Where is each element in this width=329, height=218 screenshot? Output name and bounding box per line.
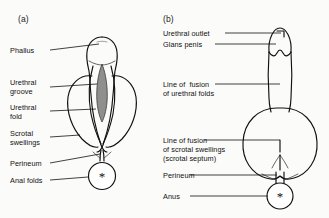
leader-perineum-a	[50, 154, 100, 163]
label-fusion-scrotal-line2: of scrotal swellings	[163, 145, 225, 154]
label-phallus: Phallus	[10, 46, 34, 55]
label-glans-penis: Glans penis	[163, 40, 202, 49]
label-fusion-scrotal-line3: (scrotal septum)	[163, 154, 216, 163]
urethral-outlet-slit	[277, 31, 284, 37]
urethral-groove-shape	[97, 64, 108, 122]
label-urethral-fold-line1: Urethral	[10, 103, 36, 112]
scrotal-fusion-right	[280, 155, 288, 168]
glans-corona-wave	[269, 50, 291, 56]
label-perineum-a: Perineum	[10, 159, 42, 168]
scrotal-swelling-right	[106, 76, 136, 147]
leader-anal-folds	[50, 177, 88, 180]
scrotal-fusion-left	[272, 155, 280, 168]
glans-penis-outline	[269, 28, 291, 52]
label-fusion-urethral-line1: Line of fusion	[163, 80, 209, 89]
anus-asterisk-b: *	[277, 189, 284, 204]
label-anal-folds: Anal folds	[10, 176, 43, 185]
penis-shaft-left	[268, 52, 271, 112]
leader-scrotal-swell	[50, 135, 80, 137]
label-perineum-b: Perineum	[163, 171, 195, 180]
glans-tip-crease	[97, 41, 107, 42]
label-urethral-fold-line2: fold	[10, 112, 22, 121]
scrotal-swelling-left	[68, 76, 98, 147]
panel-b-leaders	[190, 33, 281, 196]
panel-a-drawing: *	[68, 37, 137, 190]
label-urethral-groove-line2: groove	[10, 87, 33, 96]
penis-shaft-right	[289, 52, 292, 112]
leader-urethral-fold	[50, 109, 96, 111]
leader-phallus	[50, 44, 99, 50]
label-fusion-scrotal-line1: Line of fusion	[163, 136, 207, 145]
panel-b-drawing: *	[243, 28, 317, 209]
perineum-crease-right	[104, 152, 111, 158]
perineum-junction-a	[100, 150, 101, 161]
label-urethral-groove-line1: Urethral	[10, 78, 36, 87]
perineum-junction-a-right	[103, 150, 104, 161]
label-urethral-outlet: Urethral outlet	[163, 29, 210, 38]
label-fusion-urethral-line2: of urethral folds	[163, 89, 214, 98]
label-scrotal-swellings-line2: swellings	[10, 138, 40, 147]
figure-root: (a) (b) *	[0, 0, 329, 218]
anus-asterisk-a: *	[99, 169, 106, 184]
label-anus: Anus	[163, 192, 180, 201]
label-scrotal-swellings-line1: Scrotal	[10, 129, 33, 138]
